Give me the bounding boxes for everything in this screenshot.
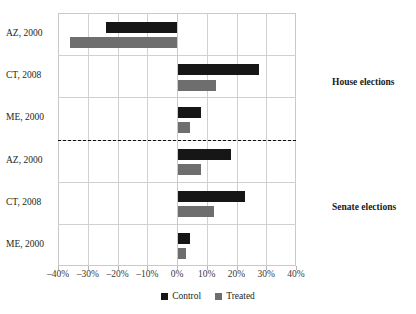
legend-swatch-treated: [215, 293, 222, 300]
panel-annotation-senate: Senate elections: [332, 203, 396, 213]
bar-chart: –40%–30%–20%–10%0%10%20%30%40%AZ, 2000CT…: [0, 0, 416, 314]
panel-annotation-house: House elections: [332, 78, 395, 88]
bar-control: [177, 191, 245, 202]
bar-control: [177, 233, 190, 244]
y-axis-category-label: ME, 2000: [6, 113, 54, 123]
bar-treated: [177, 206, 214, 217]
y-axis-category-label: AZ, 2000: [6, 29, 54, 39]
x-axis-tick-label: 40%: [276, 270, 316, 280]
y-axis-category-label: AZ, 2000: [6, 156, 54, 166]
y-axis-category-label: ME, 2000: [6, 240, 54, 250]
bar-control: [177, 64, 259, 75]
legend-label-control: Control: [172, 292, 201, 302]
legend-item-control: Control: [161, 292, 201, 302]
bar-control: [177, 107, 201, 118]
bar-treated: [177, 248, 186, 259]
bar-control: [177, 149, 231, 160]
bar-control: [106, 22, 177, 33]
legend-item-treated: Treated: [215, 292, 255, 302]
bar-treated: [70, 37, 177, 48]
legend-swatch-control: [161, 293, 168, 300]
y-axis-category-label: CT, 2008: [6, 198, 54, 208]
bar-treated: [177, 80, 216, 91]
chart-legend: Control Treated: [0, 292, 416, 302]
bar-treated: [177, 164, 201, 175]
panel-divider-dashed: [58, 140, 296, 141]
bar-treated: [177, 122, 190, 133]
y-axis-category-label: CT, 2008: [6, 71, 54, 81]
legend-label-treated: Treated: [226, 292, 255, 302]
